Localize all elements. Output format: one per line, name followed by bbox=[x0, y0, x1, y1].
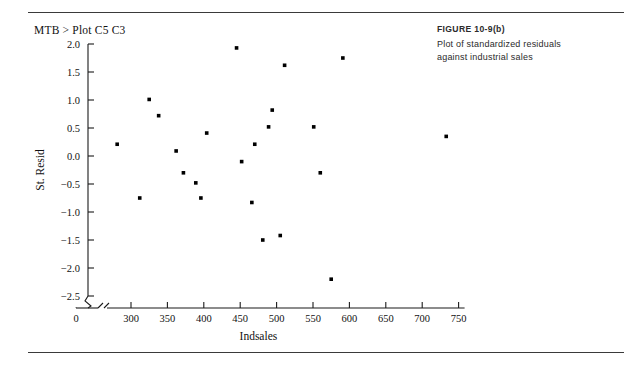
data-point bbox=[253, 142, 257, 146]
data-point bbox=[318, 171, 322, 175]
x-origin-label: 0 bbox=[73, 313, 78, 324]
plot-data-points bbox=[115, 46, 448, 281]
x-tick-label-1: 350 bbox=[160, 313, 176, 324]
data-point bbox=[199, 196, 203, 200]
x-tick-label-9: 750 bbox=[451, 313, 467, 324]
data-point bbox=[174, 149, 178, 153]
data-point bbox=[250, 201, 254, 205]
y-tick-label-8: −2.0 bbox=[61, 263, 80, 274]
y-tick-label-0: 2.0 bbox=[67, 39, 80, 50]
x-tick-label-3: 450 bbox=[232, 313, 248, 324]
x-tick-label-5: 550 bbox=[305, 313, 321, 324]
x-tick-label-8: 700 bbox=[414, 313, 430, 324]
figure-page: MTB > Plot C5 C3 FIGURE 10-9(b) Plot of … bbox=[0, 0, 640, 377]
data-point bbox=[182, 171, 186, 175]
x-tick-label-4: 500 bbox=[269, 313, 285, 324]
y-tick-label-1: 1.5 bbox=[67, 67, 80, 78]
scatter-plot: 2.01.51.00.50.0−0.5−1.0−1.5−2.0−2.530035… bbox=[0, 0, 640, 377]
data-point bbox=[138, 196, 142, 200]
data-point bbox=[267, 125, 271, 129]
data-point bbox=[444, 135, 448, 139]
y-tick-label-5: −0.5 bbox=[61, 179, 80, 190]
y-axis-break-icon bbox=[85, 296, 91, 308]
y-tick-label-4: 0.0 bbox=[67, 151, 80, 162]
data-point bbox=[157, 114, 161, 118]
x-axis-title: Indsales bbox=[240, 330, 278, 342]
data-point bbox=[115, 142, 119, 146]
data-point bbox=[240, 160, 244, 164]
data-point bbox=[194, 181, 198, 185]
data-point bbox=[341, 56, 345, 60]
y-tick-label-2: 1.0 bbox=[67, 95, 80, 106]
plot-tick-labels: 2.01.51.00.50.0−0.5−1.0−1.5−2.0−2.530035… bbox=[61, 39, 467, 324]
y-tick-label-9: −2.5 bbox=[61, 291, 80, 302]
data-point bbox=[278, 234, 282, 238]
data-point bbox=[283, 63, 287, 67]
y-axis-title: St. Resid bbox=[34, 149, 46, 191]
x-tick-label-2: 400 bbox=[196, 313, 212, 324]
data-point bbox=[312, 125, 316, 129]
y-tick-label-7: −1.5 bbox=[61, 235, 80, 246]
data-point bbox=[235, 46, 239, 50]
x-tick-label-6: 600 bbox=[342, 313, 358, 324]
y-tick-label-6: −1.0 bbox=[61, 207, 80, 218]
x-tick-label-7: 650 bbox=[378, 313, 394, 324]
x-axis-break-icon bbox=[98, 303, 109, 308]
y-tick-label-3: 0.5 bbox=[67, 123, 80, 134]
plot-axes bbox=[76, 44, 465, 308]
data-point bbox=[147, 98, 151, 102]
data-point bbox=[205, 131, 209, 135]
plot-tick-marks bbox=[88, 44, 459, 308]
data-point bbox=[329, 277, 333, 281]
data-point bbox=[270, 108, 274, 112]
x-tick-label-0: 300 bbox=[123, 313, 139, 324]
data-point bbox=[261, 238, 265, 242]
